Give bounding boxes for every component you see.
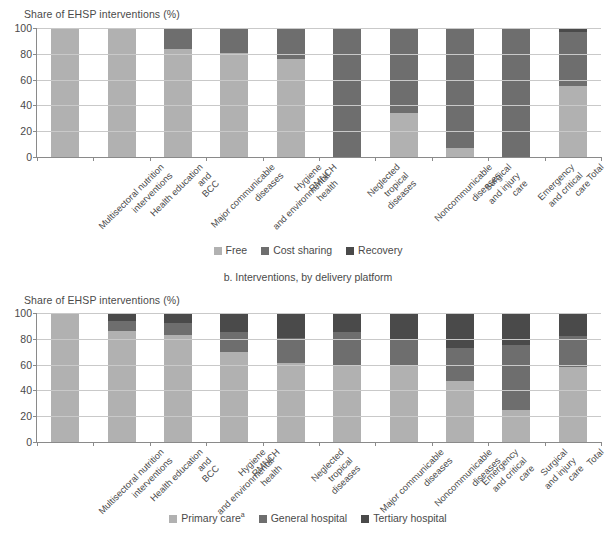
panel-subtitle: b. Interventions, by delivery platform [0, 271, 616, 283]
x-tick-mark [319, 442, 320, 446]
x-axis-label: Emergencyand criticalcare [536, 162, 594, 220]
legend-item: Primary carea [169, 511, 244, 524]
bar-b-2 [164, 313, 192, 442]
bar-segment [446, 28, 474, 148]
y-tick-label: 80 [10, 334, 32, 345]
bar-segment [51, 28, 79, 157]
bar-segment [502, 345, 530, 410]
bar-a-3 [220, 28, 248, 157]
plot-area [37, 28, 601, 157]
bar-segment [559, 86, 587, 157]
bar-segment [333, 28, 361, 157]
bar-segment [559, 367, 587, 442]
legend-swatch [259, 515, 267, 523]
bar-b-5 [333, 313, 361, 442]
y-axis-label: Share of EHSP interventions (%) [24, 294, 180, 306]
x-tick-mark [93, 442, 94, 446]
bar-a-7 [446, 28, 474, 157]
x-tick-mark [263, 442, 264, 446]
x-tick-mark [432, 442, 433, 446]
bar-segment [390, 28, 418, 113]
x-axis-label: Surgicaland injurycare [534, 447, 587, 500]
y-tick-label: 80 [10, 49, 32, 60]
bar-segment [502, 28, 530, 157]
bar-segment [390, 313, 418, 340]
x-tick-mark [432, 157, 433, 161]
legend: FreeCost sharingRecovery [0, 244, 616, 256]
legend-footnote-marker: a [241, 511, 245, 518]
bar-segment [390, 113, 418, 157]
x-tick-mark [488, 157, 489, 161]
x-axis-label: Neglectedtropicaldiseases [365, 162, 419, 216]
bar-segment [220, 313, 248, 332]
bar-segment [502, 313, 530, 345]
x-tick-mark [545, 442, 546, 446]
x-tick-mark [488, 442, 489, 446]
bar-segment [390, 340, 418, 365]
legend: Primary careaGeneral hospitalTertiary ho… [0, 511, 616, 524]
x-tick-mark [601, 157, 602, 161]
y-tick-label: 40 [10, 100, 32, 111]
chart-panel-payment-mechanism: Share of EHSP interventions (%) 02040608… [0, 0, 616, 268]
bar-segment [164, 28, 192, 49]
x-tick-mark [375, 157, 376, 161]
bar-a-4 [277, 28, 305, 157]
x-tick-mark [206, 442, 207, 446]
y-axis-line [36, 28, 37, 158]
x-tick-mark [206, 157, 207, 161]
bar-segment [108, 321, 136, 331]
bar-segment [559, 32, 587, 86]
y-axis-line [36, 313, 37, 443]
legend-item: Cost sharing [261, 244, 332, 256]
bar-b-9 [559, 313, 587, 442]
bar-segment [446, 313, 474, 348]
bar-segment [164, 335, 192, 442]
plot-area [37, 313, 601, 442]
gridline [37, 365, 601, 366]
x-tick-mark [150, 442, 151, 446]
bar-segment [559, 313, 587, 336]
bar-group [37, 313, 601, 442]
x-axis-labels: Multisectoral nutritioninterventionsHeal… [0, 162, 616, 163]
legend-label: General hospital [271, 512, 347, 524]
bar-segment [277, 313, 305, 338]
x-tick-mark [263, 157, 264, 161]
legend-swatch [261, 247, 269, 255]
bar-segment [333, 332, 361, 364]
bar-b-6 [390, 313, 418, 442]
x-tick-mark [93, 157, 94, 161]
bar-b-7 [446, 313, 474, 442]
bar-a-0 [51, 28, 79, 157]
y-axis-label: Share of EHSP interventions (%) [24, 8, 180, 20]
legend-label: Tertiary hospital [373, 512, 447, 524]
legend-label: Cost sharing [273, 244, 332, 256]
y-tick-label: 60 [10, 75, 32, 86]
bar-b-3 [220, 313, 248, 442]
gridline [37, 28, 601, 29]
legend-label: Recovery [358, 244, 402, 256]
bar-segment [333, 313, 361, 332]
legend-label: Free [226, 244, 248, 256]
bar-a-5 [333, 28, 361, 157]
gridline [37, 390, 601, 391]
x-tick-mark [37, 157, 38, 161]
bar-segment [108, 331, 136, 442]
legend-swatch [346, 247, 354, 255]
gridline [37, 416, 601, 417]
bar-b-1 [108, 313, 136, 442]
bar-segment [333, 365, 361, 442]
x-tick-mark [319, 157, 320, 161]
bar-segment [164, 323, 192, 335]
x-tick-mark [545, 157, 546, 161]
y-tick-label: 20 [10, 411, 32, 422]
x-tick-mark [601, 442, 602, 446]
bar-segment [390, 365, 418, 442]
legend-item: General hospital [259, 512, 347, 524]
x-tick-mark [37, 442, 38, 446]
chart-panel-delivery-platform: b. Interventions, by delivery platform S… [0, 288, 616, 543]
x-axis-label: Total [585, 447, 607, 469]
bar-b-8 [502, 313, 530, 442]
gridline [37, 80, 601, 81]
bar-a-8 [502, 28, 530, 157]
bar-segment [446, 148, 474, 157]
